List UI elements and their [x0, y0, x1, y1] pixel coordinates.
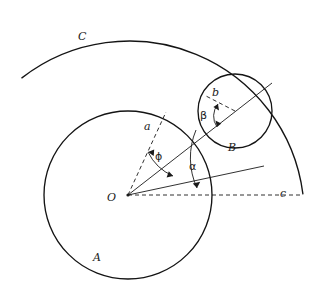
angle-arc-phi-arrow-bottom — [167, 171, 173, 177]
label-center-o: O — [107, 192, 116, 203]
label-angle-alpha: α — [189, 161, 196, 172]
figure-canvas — [0, 0, 319, 297]
angle-arc-phi-arrow-top — [148, 149, 154, 156]
label-angle-beta: β — [200, 110, 207, 121]
label-circle-a: A — [93, 252, 101, 263]
label-radius-b: b — [212, 87, 219, 98]
angle-arc-alpha — [190, 130, 197, 188]
angle-arc-alpha-arrow-end — [193, 182, 200, 188]
label-angle-phi: ϕ — [155, 151, 162, 162]
angle-arc-beta-arrow-top — [213, 104, 219, 111]
label-radius-c: c — [280, 188, 286, 199]
radius-b-dashed — [206, 96, 235, 111]
label-radius-a: a — [144, 121, 151, 132]
label-circle-b: B — [228, 142, 236, 153]
arc-c-curve — [22, 41, 303, 194]
geometry-figure: A B C O a b c α β ϕ — [0, 0, 319, 297]
center-point-o — [126, 193, 129, 196]
label-arc-c: C — [78, 31, 86, 42]
